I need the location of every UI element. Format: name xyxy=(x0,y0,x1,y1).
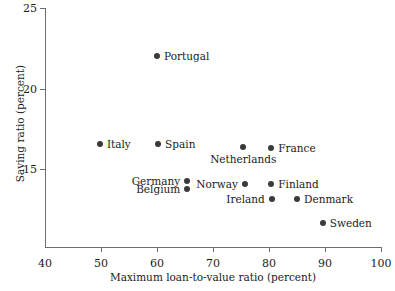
x-tick-label: 70 xyxy=(206,257,220,270)
x-tick-label: 40 xyxy=(38,257,52,270)
x-tick-mark xyxy=(213,247,214,252)
x-tick-label: 90 xyxy=(318,257,332,270)
data-point[interactable] xyxy=(154,53,160,59)
data-point[interactable] xyxy=(320,220,326,226)
x-tick-label: 100 xyxy=(371,257,392,270)
plot-area: 152025 405060708090100 PortugalItalySpai… xyxy=(45,8,381,247)
x-tick-mark xyxy=(157,247,158,252)
data-point-label: Spain xyxy=(165,138,195,150)
x-tick-mark xyxy=(325,247,326,252)
data-point[interactable] xyxy=(294,196,300,202)
x-tick-mark xyxy=(101,247,102,252)
x-tick-label: 80 xyxy=(262,257,276,270)
data-point[interactable] xyxy=(269,196,275,202)
x-tick-mark xyxy=(381,247,382,252)
y-tick-mark xyxy=(40,169,45,170)
data-point[interactable] xyxy=(97,141,103,147)
data-point[interactable] xyxy=(242,181,248,187)
data-point[interactable] xyxy=(184,178,190,184)
data-point-label: Netherlands xyxy=(210,153,276,165)
data-point-label: Finland xyxy=(278,178,319,190)
data-point-label: Portugal xyxy=(164,50,209,62)
data-point-label: Italy xyxy=(107,138,131,150)
x-tick-mark xyxy=(269,247,270,252)
y-axis-title: Saving ratio (percent) xyxy=(14,0,28,247)
data-point[interactable] xyxy=(184,186,190,192)
y-axis-line xyxy=(45,8,46,247)
data-point-label: Denmark xyxy=(304,193,353,205)
scatter-plot-figure: 152025 405060708090100 PortugalItalySpai… xyxy=(0,0,395,291)
data-point-label: Sweden xyxy=(330,217,372,229)
data-point-label: Belgium xyxy=(136,183,180,195)
data-point[interactable] xyxy=(268,181,274,187)
y-tick-mark xyxy=(40,89,45,90)
data-point-label: Norway xyxy=(196,178,238,190)
data-point[interactable] xyxy=(268,145,274,151)
x-tick-label: 50 xyxy=(94,257,108,270)
data-point[interactable] xyxy=(240,144,246,150)
y-tick-mark xyxy=(40,8,45,9)
x-tick-label: 60 xyxy=(150,257,164,270)
data-point[interactable] xyxy=(155,141,161,147)
x-axis-title: Maximum loan-to-value ratio (percent) xyxy=(45,271,381,283)
data-point-label: France xyxy=(278,142,315,154)
data-point-label: Ireland xyxy=(226,193,264,205)
